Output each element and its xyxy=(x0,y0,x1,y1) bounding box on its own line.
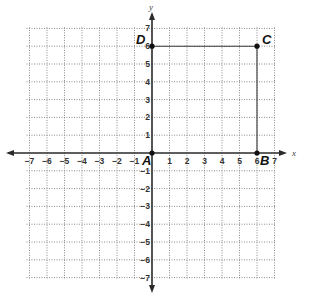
x-axis-left-arrow-icon xyxy=(6,150,14,156)
point-label-D: D xyxy=(136,32,146,47)
y-tick-label: 7 xyxy=(145,23,150,33)
y-tick-label: −4 xyxy=(140,219,150,229)
x-tick-label: 3 xyxy=(202,156,207,166)
y-axis-down-arrow-icon xyxy=(149,285,155,293)
y-axis-label: y xyxy=(148,2,153,12)
x-tick-label: −3 xyxy=(95,156,105,166)
y-tick-label: −3 xyxy=(140,201,150,211)
point-label-C: C xyxy=(262,32,272,47)
x-tick-label: −6 xyxy=(42,156,52,166)
x-tick-label: 7 xyxy=(272,156,277,166)
x-tick-label: 2 xyxy=(185,156,190,166)
y-tick-label: 4 xyxy=(145,77,150,87)
x-tick-label: −5 xyxy=(60,156,70,166)
x-tick-label: −7 xyxy=(25,156,35,166)
point-label-A: A xyxy=(141,153,151,168)
y-tick-label: 3 xyxy=(145,95,150,105)
x-axis-right-arrow-icon xyxy=(279,150,287,156)
point-D xyxy=(149,44,154,49)
x-tick-label: 4 xyxy=(220,156,225,166)
y-tick-label: 2 xyxy=(145,112,150,122)
x-tick-label: −1 xyxy=(130,156,140,166)
x-axis-label: x xyxy=(291,148,296,158)
y-tick-label: 5 xyxy=(145,59,150,69)
point-C xyxy=(254,44,259,49)
x-tick-label: −2 xyxy=(112,156,122,166)
x-tick-label: 6 xyxy=(255,156,260,166)
y-tick-label: −6 xyxy=(140,255,150,265)
x-tick-label: 5 xyxy=(237,156,242,166)
y-tick-label: −7 xyxy=(140,273,150,283)
point-B xyxy=(254,150,259,155)
y-tick-label: −5 xyxy=(140,237,150,247)
y-tick-label: 1 xyxy=(145,130,150,140)
coordinate-plane: xy −7−6−5−4−3−2−112345677654321−1−2−3−4−… xyxy=(0,0,309,305)
x-tick-label: 1 xyxy=(167,156,172,166)
y-tick-label: −2 xyxy=(140,184,150,194)
x-tick-label: −4 xyxy=(77,156,87,166)
y-axis-up-arrow-icon xyxy=(149,12,155,20)
point-label-B: B xyxy=(260,153,269,168)
